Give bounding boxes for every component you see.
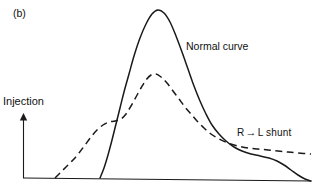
shunt-curve-annotation: R→L shunt [237,127,291,138]
shunt-curve-line [55,74,311,178]
shunt-label-right-text: L shunt [258,127,292,138]
normal-curve-annotation: Normal curve [186,41,248,52]
chart-axes [20,113,311,181]
indicator-dilution-curve-chart [0,0,320,194]
normal-curve-line [100,10,311,181]
figure-panel-b: (b) Injection Normal curve R→L shunt [0,0,320,194]
x-axis-line [23,178,311,181]
right-arrow-icon: → [244,126,257,138]
chart-series-group [55,10,311,181]
injection-arrow-marker [20,113,27,121]
panel-letter-label: (b) [13,8,26,19]
y-axis-title-label: Injection [3,96,44,107]
